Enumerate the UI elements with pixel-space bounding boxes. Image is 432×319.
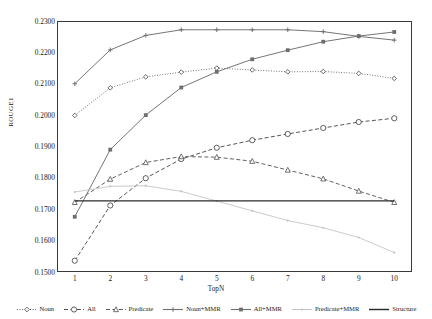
legend-item-all[interactable]: All — [63, 305, 95, 314]
legend-item-all-plus-mmr[interactable]: All+MMR — [230, 305, 282, 314]
series-noun — [72, 66, 396, 118]
legend-swatch — [368, 305, 390, 314]
legend-item-noun[interactable]: Noun — [16, 305, 55, 314]
legend-item-noun-plus-mmr[interactable]: Noun+MMR — [162, 305, 221, 314]
series-noun-plus-mmr — [72, 27, 396, 86]
legend-swatch — [291, 305, 313, 314]
series-predicate-plus-mmr — [74, 185, 396, 254]
x-tick-label: 7 — [275, 274, 301, 283]
x-tick-label: 3 — [133, 274, 159, 283]
legend-item-predicate[interactable]: Predicate — [105, 305, 154, 314]
legend-label: Structure — [392, 306, 416, 313]
x-tick-label: 6 — [239, 274, 265, 283]
x-tick-label: 10 — [381, 274, 407, 283]
series-all-plus-mmr — [73, 30, 396, 219]
x-tick-label: 8 — [310, 274, 336, 283]
series-all — [72, 116, 397, 264]
legend-swatch — [63, 305, 85, 314]
chart-legend: NounAllPredicateNoun+MMRAll+MMRPredicate… — [0, 301, 432, 317]
legend-swatch — [162, 305, 184, 314]
x-tick-label: 9 — [346, 274, 372, 283]
x-axis-title: TopN — [0, 285, 432, 293]
x-tick-label: 5 — [204, 274, 230, 283]
legend-swatch — [105, 305, 127, 314]
x-tick-label: 2 — [97, 274, 123, 283]
chart-figure: 0.15000.16000.17000.18000.19000.20000.21… — [0, 0, 432, 319]
legend-item-structure[interactable]: Structure — [368, 305, 416, 314]
legend-swatch — [16, 305, 38, 314]
x-tick-label: 1 — [62, 274, 88, 283]
legend-label: Noun — [40, 306, 55, 313]
legend-label: All — [87, 306, 95, 313]
legend-label: Noun+MMR — [186, 306, 221, 313]
legend-swatch — [230, 305, 252, 314]
legend-item-predicate-plus-mmr[interactable]: Predicate+MMR — [291, 305, 359, 314]
chart-series-layer — [0, 0, 432, 319]
legend-label: Predicate+MMR — [315, 306, 359, 313]
legend-label: All+MMR — [254, 306, 282, 313]
x-tick-label: 4 — [168, 274, 194, 283]
legend-label: Predicate — [129, 306, 154, 313]
